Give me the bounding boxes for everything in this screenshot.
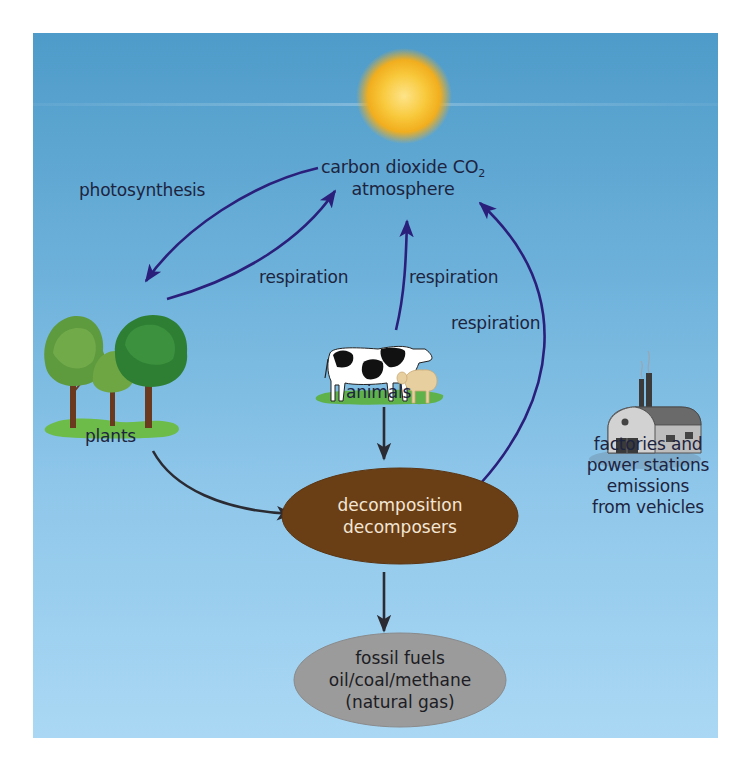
co2-subscript: 2 <box>478 167 485 180</box>
respiration-animals-arrow <box>396 221 407 330</box>
sun-icon <box>356 48 452 144</box>
atmosphere-line1: carbon dioxide CO <box>321 157 478 177</box>
atmosphere-label: carbon dioxide CO2 atmosphere <box>283 156 523 200</box>
factories-line2: power stations <box>587 455 710 475</box>
animals-label: animals <box>346 381 411 403</box>
decomposition-text: decomposition decomposers <box>300 494 500 538</box>
decomposition-line2: decomposers <box>343 517 457 537</box>
factories-line4: from vehicles <box>592 497 704 517</box>
fossil-line2: oil/coal/methane <box>329 670 471 690</box>
factories-line3: emissions <box>607 476 689 496</box>
atmosphere-line2: atmosphere <box>351 179 454 199</box>
fossil-line1: fossil fuels <box>355 648 445 668</box>
factories-line1: factories and <box>594 434 703 454</box>
factories-label: factories and power stations emissions f… <box>578 434 718 518</box>
fossil-line3: (natural gas) <box>345 692 455 712</box>
decomposition-line1: decomposition <box>338 495 463 515</box>
respiration-decomposers-label: respiration <box>451 312 540 334</box>
respiration-decomposers-arrow <box>480 203 545 483</box>
plants-label: plants <box>85 425 136 447</box>
plants-to-decomposition-arrow <box>153 451 293 514</box>
trees-icon <box>44 315 187 439</box>
photosynthesis-label: photosynthesis <box>79 179 205 201</box>
respiration-plants-label: respiration <box>259 266 348 288</box>
respiration-animals-label: respiration <box>409 266 498 288</box>
diagram-panel: carbon dioxide CO2 atmosphere photosynth… <box>33 33 718 738</box>
fossil-fuels-text: fossil fuels oil/coal/methane (natural g… <box>300 647 500 713</box>
